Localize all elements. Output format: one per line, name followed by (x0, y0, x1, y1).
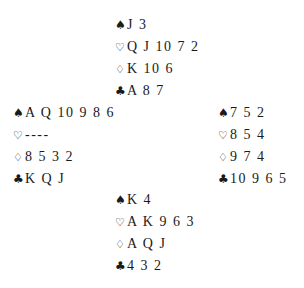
west-clubs-row: ♣K Q J (13, 169, 65, 189)
south-hearts-cards: A K 9 6 3 (127, 214, 195, 229)
spade-icon: ♠ (13, 103, 25, 123)
east-diamonds-row: ♢9 7 4 (218, 147, 266, 167)
west-spades-row: ♠A Q 10 9 8 6 (13, 103, 115, 123)
south-clubs-row: ♣4 3 2 (115, 256, 163, 276)
west-hearts-row: ♡---- (13, 125, 50, 145)
club-icon: ♣ (13, 169, 25, 189)
south-spades-cards: K 4 (127, 192, 152, 207)
north-spades-cards: J 3 (127, 17, 147, 32)
heart-outline-icon: ♡ (218, 126, 230, 146)
club-icon: ♣ (218, 169, 230, 189)
north-clubs-row: ♣A 8 7 (115, 81, 165, 101)
diamond-outline-icon: ♢ (115, 235, 127, 255)
east-clubs-row: ♣10 9 6 5 (218, 169, 288, 189)
east-diamonds-cards: 9 7 4 (230, 149, 266, 164)
diamond-outline-icon: ♢ (115, 60, 127, 80)
west-clubs-cards: K Q J (25, 171, 65, 186)
south-clubs-cards: 4 3 2 (127, 258, 163, 273)
spade-icon: ♠ (115, 15, 127, 35)
north-hearts-cards: Q J 10 7 2 (127, 39, 200, 54)
north-diamonds-cards: K 10 6 (127, 61, 174, 76)
east-hearts-cards: 8 5 4 (230, 127, 266, 142)
diamond-outline-icon: ♢ (13, 148, 25, 168)
north-spades-row: ♠J 3 (115, 15, 147, 35)
heart-outline-icon: ♡ (115, 38, 127, 58)
west-hearts-cards: ---- (25, 127, 50, 142)
east-clubs-cards: 10 9 6 5 (230, 171, 288, 186)
east-hearts-row: ♡8 5 4 (218, 125, 266, 145)
west-diamonds-row: ♢8 5 3 2 (13, 147, 74, 167)
south-spades-row: ♠K 4 (115, 190, 152, 210)
spade-icon: ♠ (218, 103, 230, 123)
club-icon: ♣ (115, 256, 127, 276)
north-clubs-cards: A 8 7 (127, 83, 165, 98)
south-diamonds-row: ♢A Q J (115, 234, 166, 254)
east-spades-row: ♠7 5 2 (218, 103, 266, 123)
south-hearts-row: ♡A K 9 6 3 (115, 212, 195, 232)
heart-outline-icon: ♡ (13, 126, 25, 146)
north-hearts-row: ♡Q J 10 7 2 (115, 37, 200, 57)
heart-outline-icon: ♡ (115, 213, 127, 233)
east-spades-cards: 7 5 2 (230, 105, 266, 120)
club-icon: ♣ (115, 81, 127, 101)
south-diamonds-cards: A Q J (127, 236, 166, 251)
west-spades-cards: A Q 10 9 8 6 (25, 105, 115, 120)
north-diamonds-row: ♢K 10 6 (115, 59, 174, 79)
diamond-outline-icon: ♢ (218, 148, 230, 168)
spade-icon: ♠ (115, 190, 127, 210)
west-diamonds-cards: 8 5 3 2 (25, 149, 74, 164)
